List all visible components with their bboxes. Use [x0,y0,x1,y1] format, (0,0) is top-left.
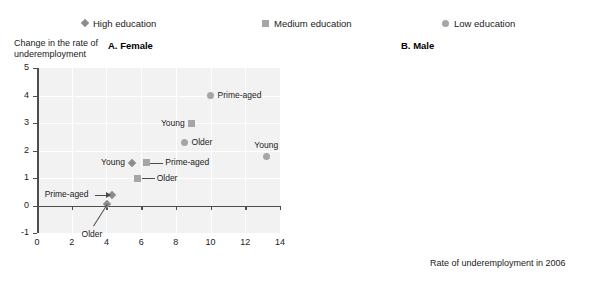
y-axis-tick-label: 1 [13,172,29,182]
figure-container: High education Medium education Low educ… [0,0,606,282]
data-point-label: Older [192,137,213,147]
y-axis-tick-label: 5 [13,62,29,72]
data-point-circle-young [263,153,270,160]
data-point-circle-prime-aged [207,92,214,99]
leader-arrowhead-icon [106,192,111,198]
x-axis-tick-label: 6 [133,237,149,247]
data-point-label: Young [254,140,278,150]
data-point-label: Prime-aged [165,157,209,167]
y-axis-foot-tick [33,233,37,234]
gridline-horizontal [37,151,280,152]
y-axis-tick [33,151,37,152]
label-leader-line [142,178,155,179]
label-leader-line [150,163,163,164]
y-axis-tick [33,123,37,124]
y-axis-tick-label: 3 [13,117,29,127]
data-point-label: Young [101,157,125,167]
x-axis-tick-label: 10 [203,237,219,247]
x-axis-tick [72,206,73,210]
x-axis-tick-label: 8 [168,237,184,247]
x-axis-tick [280,206,281,210]
data-point-square-older [134,175,141,182]
data-point-circle-older [181,139,188,146]
y-axis-tick [33,206,37,207]
x-axis-tick [245,206,246,210]
x-axis-line [37,206,280,208]
y-axis-line [37,68,39,233]
panel-female: 543210-102468101214YoungPrime-agedOlderY… [0,0,303,282]
y-axis-tick [33,96,37,97]
gridline-horizontal [37,123,280,124]
x-axis-tick-label: 12 [237,237,253,247]
y-axis-tick [33,178,37,179]
data-point-label: Older [82,229,103,239]
data-point-label: Young [161,118,185,128]
panel-male: 543210-10123456YoungPrime-agedOlderYoung… [303,0,606,282]
x-axis-tick-label: 2 [64,237,80,247]
y-axis-tick-label: 4 [13,90,29,100]
x-axis-tick-label: 0 [29,237,45,247]
y-axis-tick-label: 2 [13,145,29,155]
y-axis-tick-label: 0 [13,200,29,210]
data-point-square-prime-aged [143,159,150,166]
data-point-square-young [188,120,195,127]
x-axis-tick [176,206,177,210]
x-axis-tick-label: 14 [272,237,288,247]
y-axis-tick [33,68,37,69]
x-axis-tick [141,206,142,210]
x-axis-tick [211,206,212,210]
y-axis-tick-label: -1 [13,227,29,237]
data-point-label: Prime-aged [45,189,89,199]
data-point-label: Older [157,173,178,183]
data-point-label: Prime-aged [218,90,262,100]
